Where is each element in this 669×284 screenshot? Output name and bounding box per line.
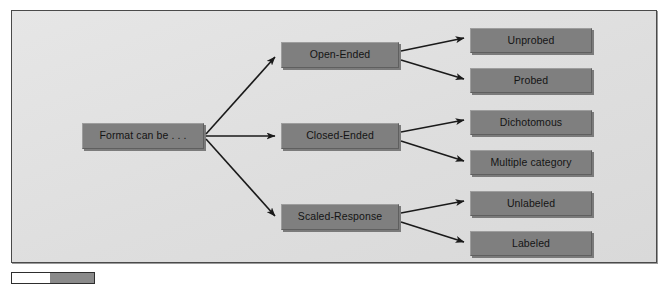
node-label: Unlabeled — [507, 198, 555, 210]
node-format-can-be[interactable]: Format can be . . . — [82, 123, 204, 149]
node-labeled[interactable]: Labeled — [470, 231, 592, 256]
caption-bar-stub — [11, 272, 95, 284]
node-label: Dichotomous — [500, 117, 562, 129]
flowchart-figure: Format can be . . . Open-Ended Closed-En… — [0, 0, 669, 284]
node-unlabeled[interactable]: Unlabeled — [470, 191, 592, 216]
node-label: Multiple category — [490, 157, 571, 169]
node-label: Scaled-Response — [298, 211, 382, 223]
node-scaled-response[interactable]: Scaled-Response — [281, 204, 399, 230]
node-label: Unprobed — [508, 35, 555, 47]
node-label: Closed-Ended — [306, 130, 374, 142]
node-label: Probed — [514, 75, 548, 87]
node-dichotomous[interactable]: Dichotomous — [470, 110, 592, 135]
node-closed-ended[interactable]: Closed-Ended — [281, 123, 399, 149]
node-label: Labeled — [512, 238, 550, 250]
node-unprobed[interactable]: Unprobed — [470, 28, 592, 53]
node-open-ended[interactable]: Open-Ended — [281, 42, 399, 68]
node-label: Format can be . . . — [99, 130, 186, 142]
caption-bar-fill — [50, 273, 94, 283]
node-probed[interactable]: Probed — [470, 68, 592, 93]
node-multiple-category[interactable]: Multiple category — [470, 150, 592, 175]
node-label: Open-Ended — [310, 49, 371, 61]
